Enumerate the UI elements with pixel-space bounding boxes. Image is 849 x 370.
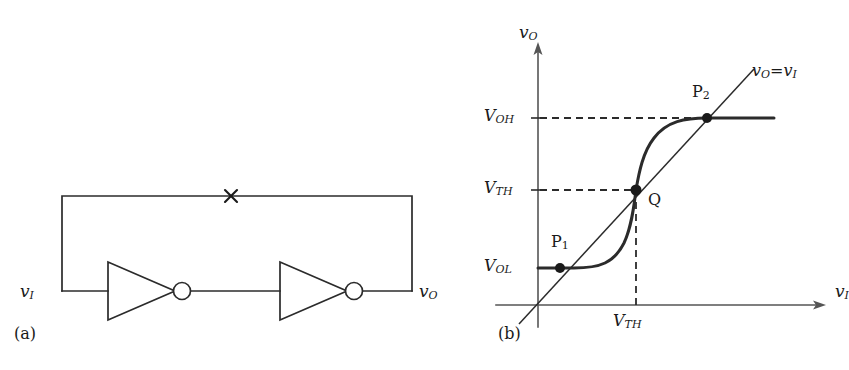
panel-b-caption: (b) xyxy=(498,326,521,342)
y-tick-label-vol: VOL xyxy=(484,258,512,275)
point-label-p1: P1 xyxy=(551,234,569,251)
circuit-input-label: vI xyxy=(20,283,34,301)
point-label-p2: P2 xyxy=(692,84,710,101)
point-label-q: Q xyxy=(648,192,661,209)
inverter-2-triangle xyxy=(280,262,347,320)
point-marker-p2 xyxy=(702,113,712,123)
inverter-2-bubble-icon xyxy=(346,283,363,300)
y-axis-label: vO xyxy=(519,24,538,42)
x-tick-label-vth: VTH xyxy=(613,313,642,330)
inverter-1-triangle xyxy=(108,262,175,320)
inverter-1-bubble-icon xyxy=(174,283,191,300)
circuit-diagram xyxy=(0,0,430,370)
y-tick-label-voh: VOH xyxy=(484,108,514,125)
feedback-wire xyxy=(62,196,412,291)
unity-gain-line-label: vO=vI xyxy=(752,63,797,80)
panel-a-caption: (a) xyxy=(14,326,36,342)
point-marker-q xyxy=(631,185,642,196)
point-marker-p1 xyxy=(555,263,565,273)
y-tick-label-vth: VTH xyxy=(484,180,513,197)
x-axis-label: vI xyxy=(835,283,849,301)
